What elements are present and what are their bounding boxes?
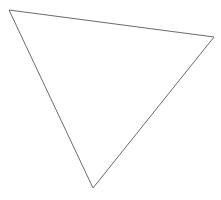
triangle-shape — [9, 10, 214, 188]
triangle-diagram — [0, 0, 221, 200]
diagram-canvas — [0, 0, 221, 200]
